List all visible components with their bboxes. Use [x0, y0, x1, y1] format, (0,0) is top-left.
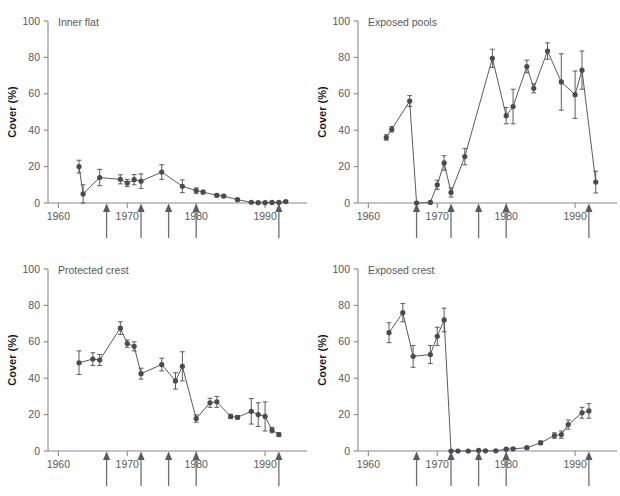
event-arrow-1976	[165, 452, 172, 487]
y-tick-label: 20	[338, 160, 350, 172]
y-tick-label: 40	[338, 372, 350, 384]
x-tick-label: 1990	[563, 458, 587, 470]
data-point	[194, 416, 199, 421]
arrow-head	[103, 204, 110, 213]
panel-title: Exposed pools	[368, 16, 437, 28]
y-axis-title: Cover (%)	[316, 86, 328, 138]
arrow-head	[447, 204, 454, 213]
data-point	[138, 371, 143, 376]
arrow-head	[503, 204, 510, 213]
y-tick-label: 0	[34, 445, 40, 457]
data-point	[493, 448, 498, 453]
data-point	[228, 414, 233, 419]
event-arrow-1967	[413, 452, 420, 487]
y-axis-title: Cover (%)	[6, 334, 18, 386]
x-tick-label: 1970	[116, 210, 140, 222]
data-point	[207, 400, 212, 405]
data-point	[455, 448, 460, 453]
y-tick-label: 100	[332, 15, 350, 27]
data-point	[118, 326, 123, 331]
data-point	[411, 354, 416, 359]
data-point	[428, 200, 433, 205]
y-tick-label: 40	[28, 124, 40, 136]
data-point	[442, 317, 447, 322]
y-tick-label: 80	[338, 51, 350, 63]
data-point	[386, 330, 391, 335]
data-point	[435, 334, 440, 339]
data-point	[531, 86, 536, 91]
data-point	[132, 177, 137, 182]
data-point	[384, 135, 389, 140]
data-point	[125, 341, 130, 346]
data-point	[262, 414, 267, 419]
y-tick-label: 80	[338, 299, 350, 311]
data-point	[462, 154, 467, 159]
y-axis-title: Cover (%)	[316, 334, 328, 386]
arrow-head	[585, 452, 592, 461]
data-point	[593, 179, 598, 184]
data-point	[400, 310, 405, 315]
data-point	[510, 104, 515, 109]
y-tick-label: 100	[22, 263, 40, 275]
data-point	[476, 448, 481, 453]
arrow-head	[137, 204, 144, 213]
panel-inner-flat: 0204060801001960197019801990Inner flatCo…	[0, 0, 310, 248]
y-tick-label: 80	[28, 51, 40, 63]
data-point	[221, 193, 226, 198]
data-point	[435, 182, 440, 187]
arrow-head	[137, 452, 144, 461]
y-tick-label: 80	[28, 299, 40, 311]
arrow-head	[413, 452, 420, 461]
data-point	[579, 68, 584, 73]
data-point	[276, 432, 281, 437]
data-point	[545, 48, 550, 53]
data-point	[235, 197, 240, 202]
data-point	[125, 180, 130, 185]
data-point	[194, 188, 199, 193]
series-line	[389, 313, 589, 451]
arrow-head	[103, 452, 110, 461]
data-point	[235, 415, 240, 420]
data-point	[90, 356, 95, 361]
event-arrow-1967	[103, 452, 110, 487]
arrow-head	[193, 204, 200, 213]
y-tick-label: 40	[28, 372, 40, 384]
x-tick-label: 1990	[253, 210, 277, 222]
data-point	[159, 362, 164, 367]
y-tick-label: 60	[338, 87, 350, 99]
arrow-head	[165, 452, 172, 461]
arrow-head	[503, 452, 510, 461]
panel-title: Exposed crest	[368, 264, 435, 276]
x-tick-label: 1970	[116, 458, 140, 470]
data-point	[159, 169, 164, 174]
x-tick-label: 1970	[426, 458, 450, 470]
panel-exposed-pools: 0204060801001960197019801990Exposed pool…	[310, 0, 620, 248]
data-point	[180, 364, 185, 369]
panel-title: Inner flat	[58, 16, 99, 28]
data-point	[81, 191, 86, 196]
data-point	[76, 164, 81, 169]
data-point	[524, 445, 529, 450]
data-point	[466, 448, 471, 453]
x-tick-label: 1960	[357, 210, 381, 222]
data-point	[249, 200, 254, 205]
y-tick-label: 100	[22, 15, 40, 27]
arrow-head	[193, 452, 200, 461]
data-point	[538, 440, 543, 445]
x-tick-label: 1990	[563, 210, 587, 222]
data-point	[448, 448, 453, 453]
x-tick-label: 1990	[253, 458, 277, 470]
event-arrow-1967	[413, 204, 420, 239]
data-point	[97, 175, 102, 180]
y-tick-label: 20	[28, 408, 40, 420]
data-point	[428, 352, 433, 357]
event-arrow-1967	[103, 204, 110, 239]
data-point	[276, 200, 281, 205]
data-point	[262, 200, 267, 205]
data-point	[566, 422, 571, 427]
data-point	[579, 410, 584, 415]
data-point	[407, 98, 412, 103]
data-point	[269, 200, 274, 205]
panel-title: Protected crest	[58, 264, 129, 276]
y-tick-label: 100	[332, 263, 350, 275]
